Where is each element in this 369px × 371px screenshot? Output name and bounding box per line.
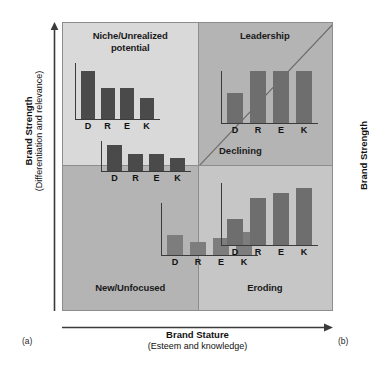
eroding-chart-y-axis xyxy=(221,183,222,245)
bar-D xyxy=(107,145,122,171)
declining-chart-category-labels: DREK xyxy=(107,173,185,183)
eroding-chart-x-axis xyxy=(221,245,318,246)
quadrant-niche-title: Niche/Unrealized potential xyxy=(63,30,198,53)
bar-K xyxy=(296,71,312,123)
eroding-chart: DREK xyxy=(221,183,303,261)
category-label-R: R xyxy=(190,257,206,267)
bar-E xyxy=(273,193,289,245)
leadership-chart: DREK xyxy=(221,71,307,139)
category-label-E: E xyxy=(149,173,164,183)
figure-marker-b: (b) xyxy=(338,336,348,346)
bar-D xyxy=(227,93,243,123)
category-label-K: K xyxy=(170,173,185,183)
niche-chart-bars xyxy=(81,63,154,119)
bottom-axis-arrow xyxy=(62,318,333,327)
bar-D xyxy=(81,71,95,119)
bar-E xyxy=(149,154,164,171)
quadrant-niche-title-line1: Niche/Unrealized xyxy=(93,30,168,41)
eroding-chart-bars xyxy=(227,183,312,245)
eroding-chart-category-labels: DREK xyxy=(227,247,312,257)
brand-matrix: Niche/Unrealized potential Leadership Ne… xyxy=(62,22,333,311)
leadership-chart-x-axis xyxy=(221,123,318,124)
niche-chart-category-labels: DREK xyxy=(81,121,154,131)
left-axis-arrow xyxy=(50,22,59,311)
quadrant-leadership-title: Leadership xyxy=(198,30,333,42)
right-axis-title: Brand Strength xyxy=(358,56,369,256)
left-axis-title: Brand Strength xyxy=(23,31,34,231)
category-label-K: K xyxy=(140,121,154,131)
category-label-K: K xyxy=(296,125,312,135)
bar-R xyxy=(128,154,143,171)
category-label-D: D xyxy=(107,173,122,183)
category-label-R: R xyxy=(250,247,266,257)
bar-D xyxy=(167,235,183,255)
declining-chart: DREK xyxy=(101,141,181,187)
quadrant-new-title: New/Unfocused xyxy=(63,282,198,294)
left-axis-subtitle: (Differentiation and relevance) xyxy=(34,31,45,231)
bar-K xyxy=(296,188,312,245)
declining-chart-y-axis xyxy=(101,141,102,171)
bar-R xyxy=(250,71,266,123)
bottom-axis-subtitle: (Esteem and knowledge) xyxy=(62,341,333,353)
category-label-D: D xyxy=(81,121,95,131)
bottom-axis-label: Brand Stature (Esteem and knowledge) xyxy=(62,329,333,352)
quadrant-niche-title-line2: potential xyxy=(111,42,150,53)
leadership-chart-category-labels: DREK xyxy=(227,125,312,135)
figure-marker-a: (a) xyxy=(22,336,32,346)
category-label-K: K xyxy=(296,247,312,257)
category-label-D: D xyxy=(227,125,243,135)
category-label-D: D xyxy=(167,257,183,267)
bottom-axis-title: Brand Stature xyxy=(62,329,333,341)
bar-E xyxy=(120,88,134,119)
bar-K xyxy=(170,158,185,171)
bar-K xyxy=(140,98,154,119)
category-label-R: R xyxy=(128,173,143,183)
bar-R xyxy=(101,88,115,119)
right-axis-label: Brand Strength xyxy=(358,56,369,256)
leadership-chart-y-axis xyxy=(221,71,222,123)
declining-chart-bars xyxy=(107,141,185,171)
category-label-E: E xyxy=(120,121,134,131)
category-label-D: D xyxy=(227,247,243,257)
niche-chart-x-axis xyxy=(75,119,160,120)
bar-R xyxy=(190,242,206,255)
bar-E xyxy=(273,71,289,123)
declining-chart-x-axis xyxy=(101,171,191,172)
category-label-E: E xyxy=(273,247,289,257)
bar-D xyxy=(227,219,243,245)
category-label-R: R xyxy=(250,125,266,135)
category-label-E: E xyxy=(273,125,289,135)
niche-chart: DREK xyxy=(75,63,151,135)
quadrant-eroding-title: Eroding xyxy=(198,282,333,294)
bar-R xyxy=(250,198,266,245)
leadership-chart-bars xyxy=(227,71,312,123)
niche-chart-y-axis xyxy=(75,63,76,119)
left-axis-label: Brand Strength (Differentiation and rele… xyxy=(23,31,45,231)
category-label-R: R xyxy=(101,121,115,131)
new-chart-y-axis xyxy=(161,203,162,255)
label-declining: Declining xyxy=(219,145,262,156)
